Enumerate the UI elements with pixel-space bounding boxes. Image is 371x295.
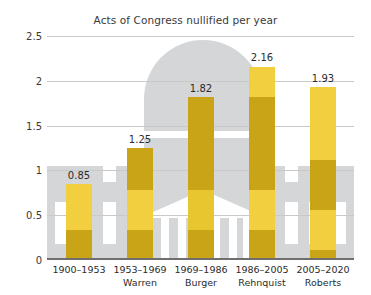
y-tick-label: 2	[2, 75, 42, 86]
x-tick-name: Burger	[174, 276, 227, 289]
y-tick-label: 0	[2, 255, 42, 266]
bar-value-label: 1.25	[129, 134, 151, 145]
plot-area: 0.85 1.25 1.82 2.16 1.93	[47, 36, 354, 260]
chart-title: Acts of Congress nullified per year	[0, 14, 371, 26]
x-tick-range: 1900–1953	[52, 264, 105, 276]
x-axis-line	[47, 258, 354, 260]
x-tick-name: Roberts	[296, 276, 349, 289]
y-tick-label: 2.5	[2, 31, 42, 42]
bar-value-label: 1.82	[190, 83, 212, 94]
bar-2005-2020[interactable]	[310, 87, 336, 260]
chart-container: Acts of Congress nullified per year 2.5 …	[0, 0, 371, 295]
y-tick-label: 1.5	[2, 120, 42, 131]
x-axis: 1900–1953 1953–1969 Warren 1969–1986 Bur…	[47, 264, 354, 295]
y-axis: 2.5 2 1.5 1 0.5 0	[0, 36, 42, 260]
x-tick-range: 1969–1986	[174, 264, 227, 276]
x-tick-range: 2005–2020	[296, 264, 349, 276]
x-tick-range: 1953–1969	[113, 264, 166, 276]
bar-value-label: 0.85	[68, 170, 90, 181]
bar-1969-1986[interactable]	[188, 97, 214, 260]
bar-1953-1969[interactable]	[127, 148, 153, 260]
x-tick-name: Warren	[113, 276, 166, 289]
y-tick-label: 1	[2, 165, 42, 176]
bar-value-label: 1.93	[312, 73, 334, 84]
bar-value-label: 2.16	[251, 52, 273, 63]
bar-1900-1953[interactable]	[66, 184, 92, 260]
y-tick-label: 0.5	[2, 210, 42, 221]
bar-1986-2005[interactable]	[249, 67, 275, 261]
x-tick-range: 1986–2005	[235, 264, 288, 276]
x-tick-name: Rehnquist	[235, 276, 288, 289]
